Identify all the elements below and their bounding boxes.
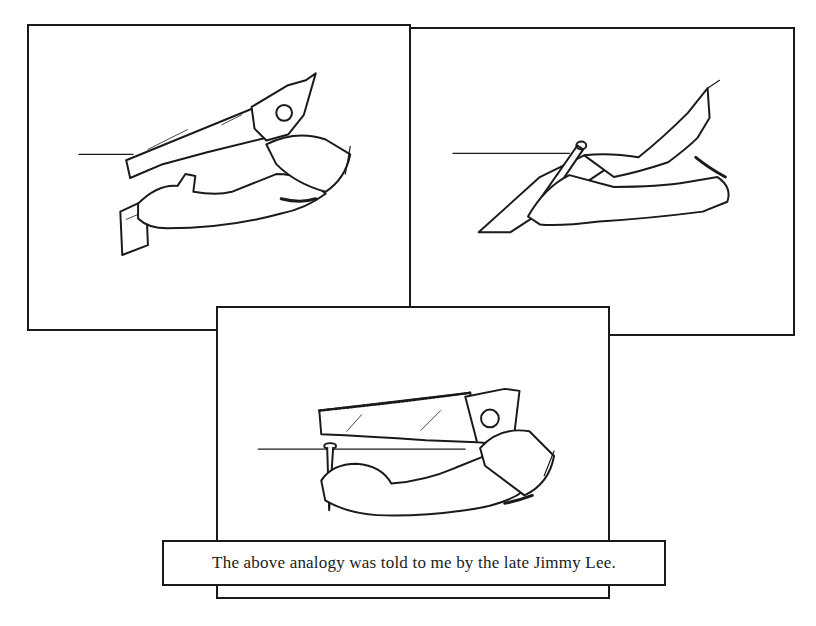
illustration-panel-saw-board	[27, 24, 411, 331]
caption-box: The above analogy was told to me by the …	[162, 540, 666, 586]
pencil-mark-illustration	[411, 29, 793, 334]
saw-board-illustration	[29, 26, 409, 329]
illustration-panel-pencil-mark	[409, 27, 795, 336]
caption-text: The above analogy was told to me by the …	[212, 553, 616, 573]
